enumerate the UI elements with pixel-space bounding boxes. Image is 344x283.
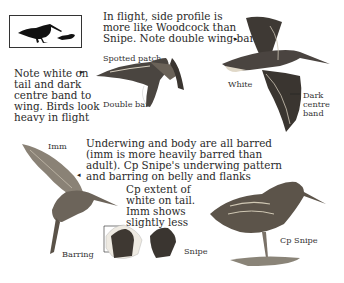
cp-snipe-label: Cp Snipe	[280, 236, 318, 245]
